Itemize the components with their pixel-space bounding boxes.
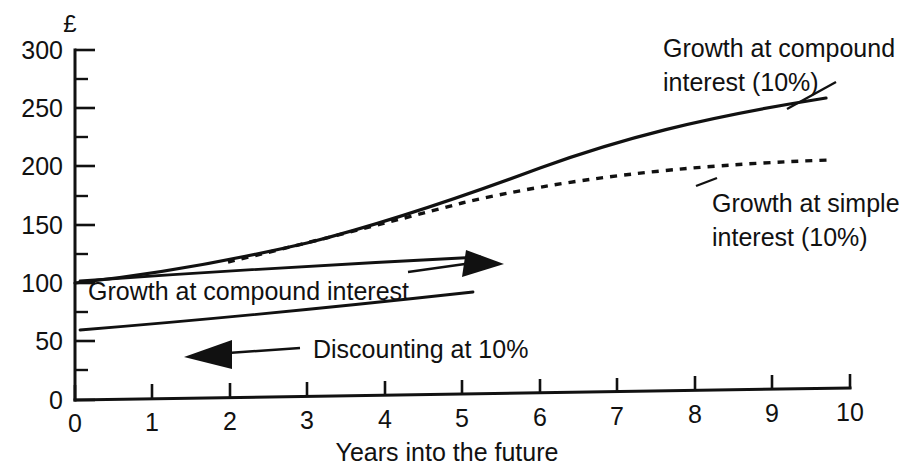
x-tick-label-9: 9 [765, 399, 779, 427]
x-tick-label-8: 8 [688, 400, 702, 428]
x-tick-label-5: 5 [455, 404, 469, 432]
x-tick-label-1: 1 [145, 408, 159, 436]
x-axis-title: Years into the future [336, 438, 559, 466]
x-tick-label-4: 4 [378, 405, 392, 433]
annotation-simple-line1: Growth at simple [712, 189, 899, 217]
x-tick-label-7: 7 [610, 402, 624, 430]
annotation-compound-top-line1: Growth at compound [663, 34, 895, 62]
annotation-simple-line2: interest (10%) [712, 223, 868, 251]
y-tick-label-200: 200 [21, 152, 63, 180]
y-tick-label-0: 0 [49, 386, 63, 414]
x-tick-label-2: 2 [223, 407, 237, 435]
y-tick-label-150: 150 [21, 211, 63, 239]
y-tick-label-300: 300 [21, 36, 63, 64]
y-tick-label-50: 50 [35, 327, 63, 355]
x-tick-label-3: 3 [300, 406, 314, 434]
x-tick-label-10: 10 [836, 398, 864, 426]
x-tick-label-0: 0 [68, 409, 82, 437]
y-axis-unit-label: £ [63, 10, 76, 37]
x-tick-label-6: 6 [533, 403, 547, 431]
y-tick-label-250: 250 [21, 94, 63, 122]
y-tick-label-100: 100 [21, 269, 63, 297]
annotation-compound-interest-inline: Growth at compound interest [88, 277, 409, 305]
annotation-discounting: Discounting at 10% [313, 335, 528, 363]
chart-figure: £ 300 250 200 150 100 50 0 [0, 0, 899, 470]
annotation-compound-top-line2: interest (10%) [663, 68, 819, 96]
